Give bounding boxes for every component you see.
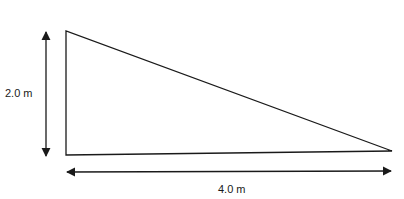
horizontal-dimension-label: 4.0 m — [218, 183, 246, 195]
vertical-dimension-label: 2.0 m — [5, 87, 33, 99]
horizontal-dimension-arrow — [67, 171, 391, 172]
triangle-diagram: 2.0 m 4.0 m — [0, 0, 404, 199]
right-triangle — [66, 31, 392, 155]
